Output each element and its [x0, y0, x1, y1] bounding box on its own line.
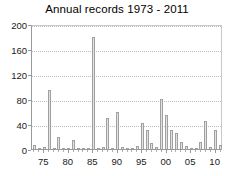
y-tick-label: 200: [11, 20, 27, 31]
x-tick-mark-minor: [205, 150, 206, 152]
x-tick-mark-minor: [136, 150, 137, 152]
bar-1976: [48, 90, 51, 149]
x-tick-mark-minor: [48, 150, 49, 152]
bar-1978: [57, 137, 60, 150]
bar-2005: [190, 148, 193, 149]
x-tick-mark: [190, 150, 191, 153]
bar-2007: [199, 142, 202, 150]
x-tick-mark-minor: [53, 150, 54, 152]
y-tick-label: 120: [11, 70, 27, 81]
bar-1986: [97, 148, 100, 149]
bar-1997: [150, 143, 153, 149]
x-tick-mark-minor: [171, 150, 172, 152]
bar-2002: [175, 133, 178, 149]
bar-2000: [165, 115, 168, 149]
bar-2003: [180, 142, 183, 150]
bar-1981: [72, 140, 75, 149]
bar-1991: [121, 147, 124, 150]
x-tick-mark-minor: [107, 150, 108, 152]
x-tick-mark-minor: [180, 150, 181, 152]
bar-1993: [131, 148, 134, 149]
x-tick-label: 00: [160, 156, 171, 167]
bar-1990: [116, 112, 119, 150]
x-tick-mark: [43, 150, 44, 153]
bar-1987: [102, 147, 105, 149]
bar-1977: [53, 148, 56, 149]
x-tick-label: 75: [38, 156, 49, 167]
bar-1998: [155, 147, 158, 149]
x-tick-mark-minor: [210, 150, 211, 152]
x-tick-mark-minor: [195, 150, 196, 152]
x-tick-mark-minor: [146, 150, 147, 152]
x-tick-label: 95: [136, 156, 147, 167]
bar-1979: [62, 148, 65, 149]
x-tick-mark-minor: [38, 150, 39, 152]
x-tick-mark-minor: [175, 150, 176, 152]
x-tick-mark-minor: [156, 150, 157, 152]
x-tick-mark-minor: [112, 150, 113, 152]
x-tick-mark: [92, 150, 93, 153]
x-tick-mark-minor: [78, 150, 79, 152]
x-tick-mark: [141, 150, 142, 153]
x-tick-mark: [68, 150, 69, 153]
x-tick-label: 80: [62, 156, 73, 167]
bar-1994: [136, 146, 139, 149]
bar-2001: [170, 130, 173, 149]
x-axis: 7580859095000510: [0, 150, 234, 176]
bar-2011: [219, 145, 222, 149]
x-tick-mark-minor: [33, 150, 34, 152]
bar-1975: [43, 147, 46, 149]
x-tick-label: 90: [111, 156, 122, 167]
x-tick-mark: [117, 150, 118, 153]
bar-1989: [111, 148, 114, 149]
chart-title: Annual records 1973 - 2011: [0, 3, 234, 15]
x-tick-mark-minor: [97, 150, 98, 152]
x-tick-mark-minor: [200, 150, 201, 152]
plot-area: [31, 25, 222, 150]
x-tick-label: 85: [87, 156, 98, 167]
x-tick-label: 10: [209, 156, 220, 167]
y-tick-label: 40: [16, 120, 27, 131]
bar-1999: [160, 99, 163, 149]
x-tick-mark-minor: [87, 150, 88, 152]
bar-1985: [92, 37, 95, 150]
y-tick-label: 160: [11, 45, 27, 56]
bar-1973: [33, 145, 36, 149]
x-tick-mark-minor: [82, 150, 83, 152]
x-tick-mark: [215, 150, 216, 153]
bar-2009: [209, 147, 212, 149]
bar-1988: [106, 118, 109, 149]
x-tick-mark-minor: [161, 150, 162, 152]
bar-1983: [82, 148, 85, 149]
bar-chart: Annual records 1973 - 2011 0408012016020…: [0, 0, 234, 176]
x-tick-mark-minor: [73, 150, 74, 152]
bar-1992: [126, 148, 129, 149]
bar-1996: [146, 130, 149, 149]
bar-1974: [38, 148, 41, 149]
bar-1982: [77, 148, 80, 149]
bar-2010: [214, 130, 217, 149]
bar-2004: [185, 146, 188, 149]
x-tick-mark-minor: [58, 150, 59, 152]
x-tick-mark-minor: [63, 150, 64, 152]
x-tick-mark: [166, 150, 167, 153]
bar-1995: [141, 123, 144, 149]
bar-2008: [204, 121, 207, 149]
x-tick-mark-minor: [102, 150, 103, 152]
x-tick-mark-minor: [131, 150, 132, 152]
x-tick-mark-minor: [220, 150, 221, 152]
x-tick-label: 05: [185, 156, 196, 167]
x-tick-mark-minor: [185, 150, 186, 152]
bar-1980: [67, 148, 70, 149]
bar-1984: [87, 148, 90, 149]
bar-2006: [195, 148, 198, 149]
x-tick-mark-minor: [122, 150, 123, 152]
x-tick-mark-minor: [127, 150, 128, 152]
bar-series: [32, 26, 221, 149]
y-tick-label: 80: [16, 95, 27, 106]
x-tick-mark-minor: [151, 150, 152, 152]
